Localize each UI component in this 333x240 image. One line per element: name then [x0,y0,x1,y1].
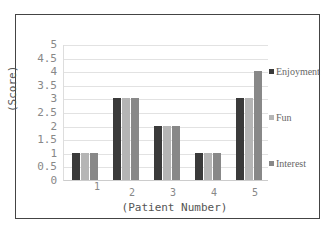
y-tick-label: 5 [30,39,57,50]
y-axis-label: (Score) [6,66,19,112]
y-tick-label: 1.5 [30,134,57,145]
legend-swatch-icon [269,115,274,120]
bar-fun-3 [163,126,171,180]
y-tick-label: 4 [30,66,57,77]
legend-label: Interest [276,158,306,169]
bar-fun-2 [122,98,130,180]
bar-enjoyment-3 [154,126,162,180]
legend-item-interest: Interest [269,158,306,169]
legend-item-enjoyment: Enjoyment [269,66,320,77]
y-tick-label: 2.5 [30,107,57,118]
legend-label: Enjoyment [276,66,320,77]
gridline [64,45,268,46]
plot-area [63,45,268,181]
bar-interest-3 [172,126,180,180]
x-tick-label: 3 [166,187,180,198]
y-tick-label: 3.5 [30,80,57,91]
x-axis-label: (Patient Number) [0,201,333,214]
bar-interest-1 [90,153,98,180]
x-tick-label: 1 [90,181,104,192]
legend-item-fun: Fun [269,112,292,123]
y-tick-label: 0 [30,175,57,186]
gridline [64,86,268,87]
bar-enjoyment-1 [72,153,80,180]
bar-fun-1 [81,153,89,180]
x-tick-label: 4 [207,187,221,198]
gridline [64,59,268,60]
y-tick-label: 2 [30,121,57,132]
bar-fun-4 [204,153,212,180]
bar-enjoyment-2 [113,98,121,180]
x-tick-label: 5 [248,187,262,198]
y-tick-label: 4.5 [30,53,57,64]
bar-enjoyment-5 [236,98,244,180]
bar-interest-2 [131,98,139,180]
legend-label: Fun [276,112,292,123]
legend-swatch-icon [269,69,274,74]
bar-enjoyment-4 [195,153,203,180]
y-tick-label: 3 [30,93,57,104]
bar-interest-4 [213,153,221,180]
y-tick-label: 1 [30,148,57,159]
legend-swatch-icon [269,161,274,166]
y-tick-label: 0.5 [30,161,57,172]
bar-interest-5 [254,71,262,180]
x-tick-label: 2 [125,187,139,198]
bar-fun-5 [245,98,253,180]
gridline [64,72,268,73]
